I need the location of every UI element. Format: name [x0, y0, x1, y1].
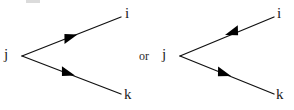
right-endpoint-label-k: k	[276, 87, 284, 102]
right-vertex-label-j: j	[162, 47, 166, 62]
left-vertex-diagram	[22, 17, 121, 94]
left-endpoint-label-i: i	[125, 6, 129, 21]
right-upper-leg-line	[180, 17, 274, 56]
right-vertex-diagram	[180, 17, 274, 94]
conjunction-label-or: or	[139, 50, 149, 62]
left-vertex-label-j: j	[4, 47, 8, 62]
right-lower-arrowhead	[215, 66, 233, 80]
vertex-diagram-figure: j i k or j i k	[0, 0, 294, 110]
right-upper-arrowhead	[223, 25, 241, 39]
left-lower-arrowhead	[59, 66, 77, 80]
left-endpoint-label-k: k	[124, 87, 132, 102]
right-endpoint-label-i: i	[277, 6, 281, 21]
left-upper-arrowhead	[61, 30, 79, 44]
